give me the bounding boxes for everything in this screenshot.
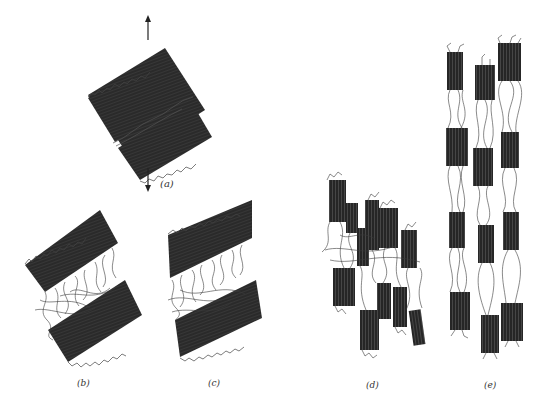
crystal-block [501,132,519,168]
crystal-block [503,212,519,250]
crystal-block [473,148,493,186]
crystal-block [498,43,521,81]
crystal-block [446,128,468,166]
panel-c: (c) [168,200,262,388]
crystal-block [450,292,470,330]
panel-d: (d) [322,172,425,390]
crystal-block [329,180,346,222]
crystal-block [377,283,391,319]
crystal-block [360,310,379,350]
crystal-block [481,315,499,353]
crystal-block [475,65,495,100]
crystal-block [409,309,426,345]
crystal-block [333,268,355,306]
crystal-block [449,212,465,248]
lamella-top [168,200,252,278]
crystal-block [378,208,398,248]
microfibril-1 [446,52,470,330]
panel-label-c: (c) [208,378,221,388]
crystal-block [501,303,523,341]
lamellae-deformation-diagram: (a) (b) (c) (d) [0,0,557,416]
panel-label-a: (a) [160,178,174,189]
crystal-block [447,52,463,90]
panel-e: (e) [446,35,523,390]
panel-b: (b) [25,210,142,388]
microfibril-3 [498,43,523,341]
crystal-block [478,225,494,263]
crystal-block [401,230,417,268]
panel-a: (a) [88,15,212,192]
lamella-top [25,210,118,292]
crystal-block [346,203,358,233]
lamella-bottom [175,280,262,357]
arrow-up-icon [145,15,151,40]
panel-label-b: (b) [77,378,90,388]
lamella-bottom [48,280,142,362]
crystal-block [393,287,407,327]
microfibril-2 [473,65,499,353]
panel-label-d: (d) [366,380,379,390]
panel-label-e: (e) [484,380,497,390]
